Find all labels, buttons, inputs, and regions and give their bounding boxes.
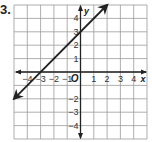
graphed-line	[14, 5, 107, 99]
x-axis-label: x	[139, 74, 146, 84]
origin-label: O	[71, 73, 79, 84]
coordinate-plane: −4−3−2−112344321−2−3−4Oxy	[0, 0, 152, 142]
y-axis-label: y	[83, 6, 90, 16]
x-tick-label: 3	[118, 74, 123, 84]
x-tick-label: −2	[49, 74, 59, 84]
x-tick-label: 1	[91, 74, 96, 84]
y-tick-label: −4	[68, 121, 78, 131]
y-tick-label: 4	[73, 13, 78, 23]
x-tick-label: 2	[105, 74, 110, 84]
y-tick-label: 2	[73, 40, 78, 50]
y-tick-label: −3	[68, 107, 78, 117]
x-tick-label: 4	[131, 74, 136, 84]
y-tick-label: 1	[73, 54, 78, 64]
y-tick-label: −2	[68, 94, 78, 104]
